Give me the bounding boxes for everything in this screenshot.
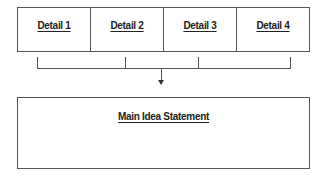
arrow-down-icon (158, 80, 164, 85)
main-idea-label: Main Idea Statement (118, 111, 209, 122)
connector-tick (198, 57, 199, 69)
detail-box-3: Detail 3 (164, 8, 237, 51)
detail-box-4: Detail 4 (237, 8, 309, 51)
details-row: Detail 1 Detail 2 Detail 3 Detail 4 (17, 7, 310, 52)
detail-label: Detail 2 (110, 20, 143, 31)
detail-label: Detail 1 (37, 20, 70, 31)
main-idea-box: Main Idea Statement (17, 97, 310, 169)
connector-bracket (37, 57, 291, 69)
detail-box-2: Detail 2 (91, 8, 164, 51)
detail-label: Detail 4 (256, 20, 289, 31)
detail-box-1: Detail 1 (18, 8, 91, 51)
connector-tick (125, 57, 126, 69)
detail-label: Detail 3 (183, 20, 216, 31)
